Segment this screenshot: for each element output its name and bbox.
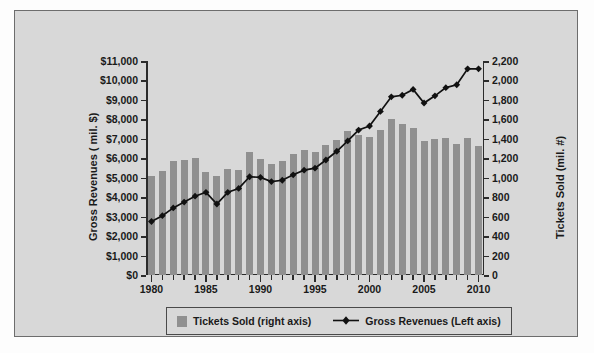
chart-page: Gross Revenues ( mil. $) Tickets Sold (m… [0,0,594,353]
left-axis-tick-label: $8,000 [106,113,138,125]
right-axis-tick [484,217,489,219]
right-axis-title: Tickets Sold (mil. #) [554,136,566,239]
x-axis-tick [260,275,262,282]
right-axis-tick [484,158,489,160]
left-axis-tick-label: $10,000 [100,74,138,86]
x-axis-tick [380,275,382,280]
x-axis-tick-label: 2010 [467,283,490,295]
x-axis-tick [205,275,207,282]
legend-label-gross-revenues: Gross Revenues (Left axis) [365,315,500,327]
x-axis-tick [412,275,414,280]
right-axis-tick-label: 1,800 [492,94,518,106]
x-axis-tick [303,275,305,280]
right-axis-tick-label: 1,200 [492,152,518,164]
left-axis-tick [141,139,146,141]
x-axis-tick [467,275,469,280]
left-axis-tick [141,61,146,63]
line-marker [301,167,308,174]
line-marker [192,193,199,200]
right-axis-tick-label: 1,600 [492,113,518,125]
right-axis-tick-label: 2,200 [492,55,518,67]
left-axis-tick [141,236,146,238]
x-axis-tick [369,275,371,282]
left-axis-tick-label: $9,000 [106,94,138,106]
right-axis-tick [484,256,489,258]
x-axis-tick [162,275,164,280]
right-axis-tick [484,275,489,277]
plot-area: $0$1,000$2,000$3,000$4,000$5,000$6,000$7… [146,61,484,275]
line-marker [148,218,155,225]
x-axis-tick-label: 2005 [412,283,435,295]
x-axis-tick [227,275,229,280]
right-axis-tick [484,119,489,121]
left-axis-tick-label: $1,000 [106,250,138,262]
left-axis-tick-label: $5,000 [106,172,138,184]
right-axis-tick [484,139,489,141]
x-axis-tick [249,275,251,280]
x-axis-tick [478,275,480,282]
line-path [151,69,478,222]
x-axis-tick [314,275,316,282]
legend-item-tickets-sold: Tickets Sold (right axis) [177,315,311,327]
line-marker [290,171,297,178]
right-axis-tick-label: 600 [492,211,510,223]
line-marker [399,92,406,99]
x-axis-tick [238,275,240,280]
x-axis-tick [325,275,327,280]
left-axis-tick [141,100,146,102]
left-axis-tick-label: $2,000 [106,230,138,242]
left-axis-tick-label: $7,000 [106,133,138,145]
legend-label-tickets-sold: Tickets Sold (right axis) [193,315,311,327]
line-marker [475,65,482,72]
x-axis-tick [216,275,218,280]
left-axis-tick [141,158,146,160]
left-axis-tick-label: $11,000 [101,55,138,67]
line-series [146,61,484,275]
x-axis-tick [194,275,196,280]
right-axis-tick [484,236,489,238]
x-axis-tick [347,275,349,280]
x-axis-tick-label: 1995 [303,283,326,295]
left-axis-tick-label: $6,000 [106,152,138,164]
x-axis-tick [282,275,284,280]
legend-item-gross-revenues: Gross Revenues (Left axis) [333,312,500,330]
x-axis-tick [358,275,360,280]
x-axis-tick-label: 1980 [140,283,163,295]
right-axis-tick-label: 1,000 [492,172,518,184]
right-axis-tick-label: 0 [492,269,498,281]
left-axis-tick-label: $4,000 [106,191,138,203]
right-axis-tick [484,61,489,63]
x-axis-tick [391,275,393,280]
left-axis-tick [141,197,146,199]
right-axis-tick-label: 200 [492,250,510,262]
x-axis-tick [336,275,338,280]
x-axis-tick [292,275,294,280]
x-axis-tick [401,275,403,280]
left-axis-tick [141,119,146,121]
left-axis-tick-label: $3,000 [106,211,138,223]
x-axis-tick [445,275,447,280]
right-axis-tick-label: 800 [492,191,510,203]
right-axis-tick-label: 1,400 [492,133,518,145]
chart-panel: Gross Revenues ( mil. $) Tickets Sold (m… [14,10,578,337]
right-axis-tick-label: 400 [492,230,510,242]
left-axis-tick [141,256,146,258]
left-axis-tick [141,80,146,82]
legend-line-diamond-icon [333,312,359,330]
x-axis-tick [423,275,425,282]
left-axis-title: Gross Revenues ( mil. $) [87,113,99,241]
right-axis-tick-label: 2,000 [492,74,518,86]
x-axis-tick [271,275,273,280]
right-axis-tick [484,80,489,82]
left-axis-tick-label: $0 [126,269,138,281]
left-axis-tick [141,178,146,180]
line-marker [257,174,264,181]
right-axis-tick [484,178,489,180]
line-marker [279,177,286,184]
x-axis-tick [456,275,458,280]
legend-swatch-icon [177,316,187,327]
x-axis-tick [183,275,185,280]
x-axis-tick-label: 1985 [194,283,217,295]
line-marker [181,199,188,206]
x-axis-tick [151,275,153,282]
